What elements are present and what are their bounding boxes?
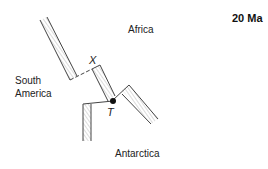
plate-label-antarctica: Antarctica (115, 148, 159, 159)
triple-junction-dot (110, 98, 116, 104)
ridge-segment-upper (40, 17, 77, 80)
plate-label-south-america-line2: America (15, 88, 52, 99)
ridge-segment-right (113, 85, 158, 124)
plate-label-south-america-line1: South (15, 75, 41, 86)
ridge-segment-middle (92, 65, 115, 101)
point-label-t: T (107, 107, 114, 118)
point-label-x: X (89, 55, 96, 66)
age-title: 20 Ma (232, 13, 263, 24)
plate-label-africa: Africa (128, 24, 154, 35)
